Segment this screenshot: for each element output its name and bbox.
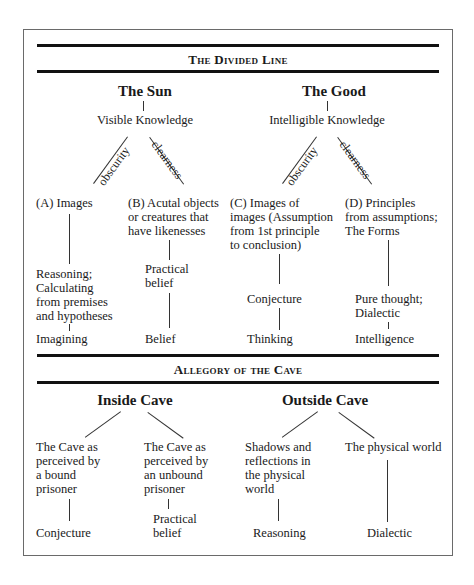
heading-outside-cave: Outside Cave bbox=[265, 392, 385, 409]
outside-right-label: The physical world bbox=[345, 440, 442, 454]
connector bbox=[69, 214, 70, 264]
rule-under-divided-line bbox=[37, 70, 439, 73]
col-a-middle: Reasoning; Calculating from premises and… bbox=[36, 267, 113, 323]
rule-under-cave bbox=[37, 381, 439, 384]
section-title-allegory-cave: Allegory of the Cave bbox=[37, 362, 439, 378]
col-c-bottom: Thinking bbox=[247, 332, 293, 346]
outside-right-bottom: Dialectic bbox=[367, 526, 412, 540]
connector bbox=[327, 101, 328, 111]
col-d-middle: Pure thought; Dialectic bbox=[355, 292, 423, 320]
inside-left-bottom: Conjecture bbox=[36, 526, 91, 540]
top-rule bbox=[37, 44, 439, 47]
outside-left-bottom: Reasoning bbox=[253, 526, 306, 540]
inside-right-bottom: Practical belief bbox=[153, 512, 197, 540]
connector bbox=[168, 499, 169, 509]
visible-knowledge: Visible Knowledge bbox=[70, 113, 220, 127]
connector bbox=[143, 101, 144, 111]
col-c-label: (C) Images of images (Assumption from 1s… bbox=[230, 196, 333, 252]
heading-the-sun: The Sun bbox=[100, 83, 190, 100]
intelligible-knowledge: Intelligible Knowledge bbox=[247, 113, 407, 127]
connector bbox=[388, 240, 389, 286]
connector bbox=[69, 324, 70, 331]
col-d-label: (D) Principles from assumptions; The For… bbox=[345, 196, 438, 238]
rule-above-cave bbox=[37, 354, 439, 357]
heading-inside-cave: Inside Cave bbox=[80, 392, 190, 409]
connector bbox=[387, 460, 388, 522]
inside-right-label: The Cave as perceived by an unbound pris… bbox=[144, 440, 208, 496]
col-b-bottom: Belief bbox=[145, 332, 176, 346]
col-a-bottom: Imagining bbox=[36, 332, 87, 346]
col-c-middle: Conjecture bbox=[247, 292, 302, 306]
connector bbox=[388, 322, 389, 329]
connector bbox=[279, 254, 280, 284]
col-d-bottom: Intelligence bbox=[355, 332, 414, 346]
inside-left-label: The Cave as perceived by a bound prisone… bbox=[36, 440, 100, 496]
connector bbox=[279, 308, 280, 330]
connector bbox=[169, 293, 170, 328]
section-title-divided-line: The Divided Line bbox=[37, 52, 439, 68]
col-a-label: (A) Images bbox=[36, 196, 93, 210]
col-b-label: (B) Acutal objects or creatures that hav… bbox=[128, 196, 219, 238]
outside-left-label: Shadows and reflections in the physical … bbox=[245, 440, 311, 496]
heading-the-good: The Good bbox=[284, 83, 384, 100]
connector bbox=[169, 240, 170, 260]
connector bbox=[278, 499, 279, 521]
connector bbox=[69, 499, 70, 521]
col-b-middle: Practical belief bbox=[145, 262, 189, 290]
